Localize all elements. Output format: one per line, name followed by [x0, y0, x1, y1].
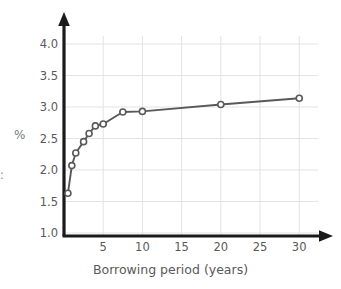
- left-edge-text-fragment: :: [0, 168, 4, 182]
- series-markers: [65, 95, 302, 196]
- chart-container: 1.01.52.02.53.03.54.0 51015202530 % Borr…: [0, 0, 341, 289]
- y-axis-tick-label: 4.0: [28, 37, 58, 51]
- y-axis-title: %: [14, 128, 25, 142]
- data-point-marker: [296, 95, 302, 101]
- data-point-marker: [69, 163, 75, 169]
- y-axis-tick-label: 1.5: [28, 195, 58, 209]
- y-axis-arrowhead: [58, 12, 70, 26]
- data-point-marker: [81, 139, 87, 145]
- x-axis-arrowhead: [319, 230, 333, 242]
- data-series-layer: [65, 95, 302, 196]
- x-axis-tick-label: 30: [292, 240, 307, 254]
- y-axis-tick-label: 2.5: [28, 132, 58, 146]
- data-point-marker: [86, 130, 92, 136]
- vertical-gridlines: [103, 36, 299, 236]
- x-axis-tick-label: 20: [213, 240, 228, 254]
- y-axis-tick-label: 2.0: [28, 163, 58, 177]
- data-point-marker: [73, 150, 79, 156]
- data-point-marker: [139, 108, 145, 114]
- x-axis-tick-label: 15: [174, 240, 189, 254]
- horizontal-gridlines: [64, 44, 318, 233]
- y-axis-tick-label: 3.5: [28, 69, 58, 83]
- y-axis-tick-label: 1.0: [28, 226, 58, 240]
- data-point-marker: [218, 101, 224, 107]
- x-axis-tick-label: 5: [100, 240, 107, 254]
- data-point-marker: [120, 109, 126, 115]
- data-point-marker: [65, 190, 71, 196]
- data-point-marker: [92, 123, 98, 129]
- x-axis-tick-label: 10: [135, 240, 150, 254]
- axis-lines: [58, 12, 333, 242]
- data-point-marker: [100, 121, 106, 127]
- x-axis-tick-label: 25: [253, 240, 268, 254]
- x-axis-title: Borrowing period (years): [0, 262, 341, 277]
- y-axis-tick-label: 3.0: [28, 100, 58, 114]
- series-line: [68, 98, 299, 193]
